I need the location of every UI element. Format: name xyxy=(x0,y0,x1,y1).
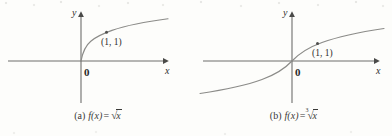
caption-a-index: (a) xyxy=(74,110,85,121)
figure-panel-b: y x 0 (1, 1) (b) f(x)=3√x xyxy=(196,0,392,136)
origin-label: 0 xyxy=(295,66,301,78)
point-marker-1-1 xyxy=(316,42,319,45)
caption-b-radical: 3√x xyxy=(306,110,318,121)
x-axis-label: x xyxy=(375,65,381,76)
origin-label: 0 xyxy=(84,66,90,78)
point-label-1-1: (1, 1) xyxy=(312,48,333,59)
y-axis-label: y xyxy=(282,7,288,18)
caption-b: (b) f(x)=3√x xyxy=(196,110,392,121)
caption-b-index: (b) xyxy=(270,110,282,121)
caption-a-root-argument: x xyxy=(116,109,122,121)
point-label-1-1: (1, 1) xyxy=(101,37,122,48)
curve-sqrt xyxy=(81,19,168,61)
point-marker-1-1 xyxy=(105,31,108,34)
caption-b-root-index: 3 xyxy=(305,107,308,113)
x-axis-label: x xyxy=(164,65,170,76)
figure-panel-a: y x 0 (1, 1) (a) f(x)=√x xyxy=(0,0,196,136)
y-axis-label: y xyxy=(71,7,77,18)
caption-b-root-argument: x xyxy=(313,109,319,121)
caption-a: (a) f(x)=√x xyxy=(0,110,196,121)
caption-b-function: f(x) xyxy=(284,110,298,121)
caption-a-function: f(x) xyxy=(88,110,102,121)
caption-a-radical: √x xyxy=(110,110,122,121)
caption-a-equals: = xyxy=(103,110,109,121)
figure-sheet: y x 0 (1, 1) (a) f(x)=√x y x 0 (1, 1) xyxy=(0,0,392,136)
